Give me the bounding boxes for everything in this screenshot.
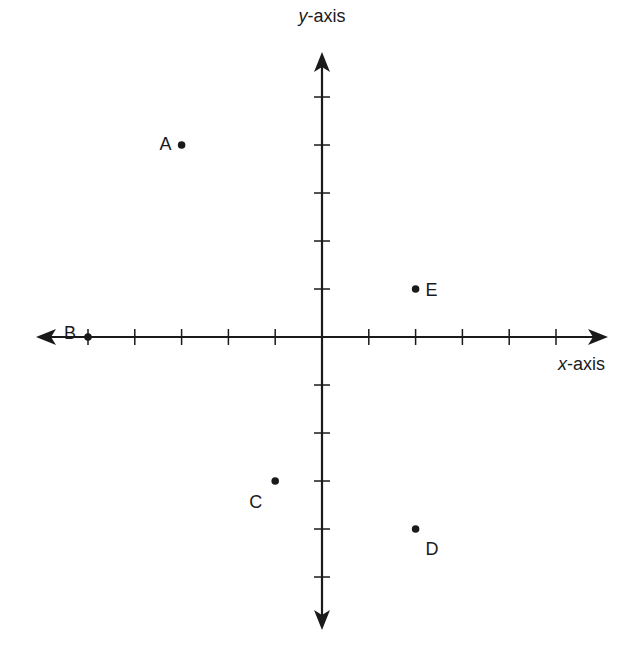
point-label-a: A <box>160 134 172 154</box>
point-b <box>84 333 92 341</box>
y-axis-label: y-axis <box>296 6 345 26</box>
point-c <box>271 477 279 485</box>
point-label-e: E <box>426 280 438 300</box>
coordinate-plane: ABCDE y-axis x-axis <box>0 0 631 665</box>
point-label-c: C <box>249 492 262 512</box>
point-label-d: D <box>426 539 439 559</box>
point-label-b: B <box>64 323 76 343</box>
data-points: ABCDE <box>64 134 439 559</box>
point-a <box>178 141 186 149</box>
point-e <box>412 285 420 293</box>
x-axis-label: x-axis <box>557 354 605 374</box>
point-d <box>412 525 420 533</box>
